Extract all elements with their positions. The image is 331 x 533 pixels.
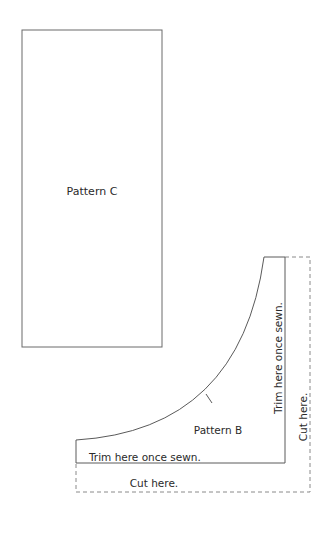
cut-bottom-label: Cut here. [130, 477, 178, 489]
pattern-b-outline [76, 257, 285, 463]
pattern-c: Pattern C [22, 30, 162, 347]
sewing-pattern-diagram: Pattern C Pattern B Trim here once sewn.… [0, 0, 331, 533]
notch-mark [206, 394, 212, 403]
trim-bottom-label: Trim here once sewn. [88, 451, 201, 463]
trim-right-label: Trim here once sewn. [272, 302, 284, 415]
cut-right-label: Cut here. [297, 393, 309, 441]
pattern-b-label: Pattern B [194, 424, 242, 436]
pattern-c-label: Pattern C [67, 185, 118, 198]
pattern-b: Pattern B Trim here once sewn. Cut here.… [76, 257, 310, 492]
